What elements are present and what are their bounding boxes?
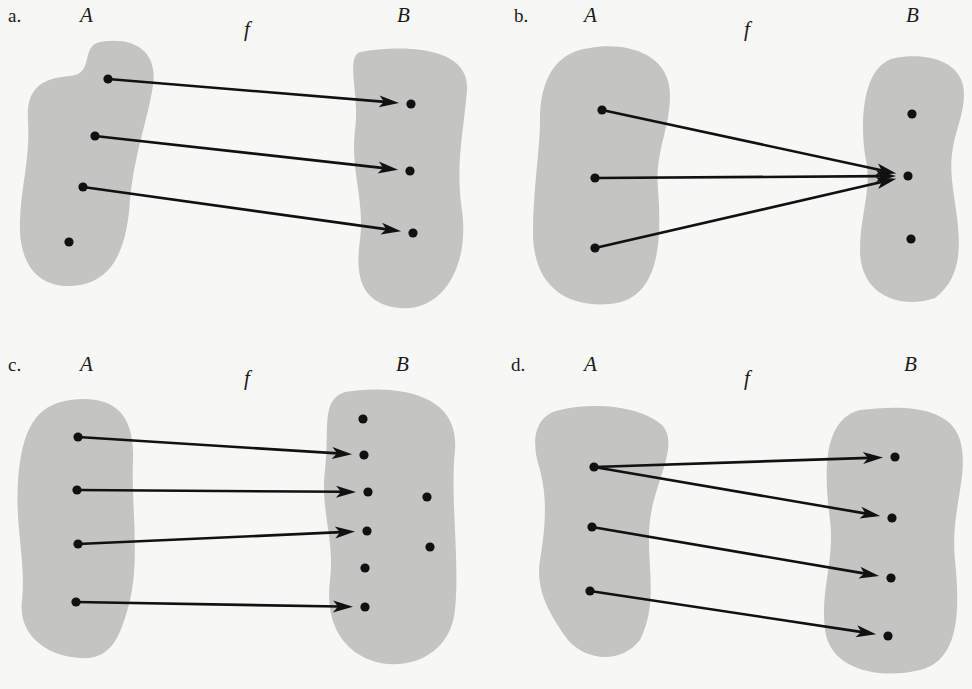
- codomain-element-dot: [907, 109, 916, 118]
- set-b-region: [353, 49, 467, 309]
- set-b-region: [860, 56, 964, 302]
- function-label: f: [744, 17, 753, 41]
- function-label: f: [744, 366, 753, 390]
- domain-set-label: A: [78, 352, 93, 376]
- panel-c: c.AfB: [8, 352, 456, 664]
- domain-element-dot: [72, 485, 81, 494]
- panels-root: a.AfBb.AfBc.AfBd.AfB: [8, 3, 964, 674]
- domain-element-dot: [78, 182, 87, 191]
- codomain-element-dot: [883, 631, 892, 640]
- domain-element-dot: [590, 173, 599, 182]
- codomain-element-dot: [358, 414, 367, 423]
- codomain-set-label: B: [396, 352, 409, 376]
- codomain-set-label: B: [906, 3, 919, 27]
- codomain-element-dot: [886, 573, 895, 582]
- panel-letter: b.: [514, 5, 528, 26]
- domain-element-dot: [587, 522, 596, 531]
- codomain-element-dot: [425, 542, 434, 551]
- panel-letter: a.: [8, 5, 21, 26]
- domain-element-dot: [64, 237, 73, 246]
- set-a-region: [20, 41, 154, 286]
- set-b-region: [324, 390, 456, 665]
- domain-element-dot: [597, 105, 606, 114]
- codomain-set-label: B: [397, 3, 410, 27]
- codomain-element-dot: [422, 492, 431, 501]
- domain-element-dot: [589, 462, 598, 471]
- codomain-element-dot: [890, 452, 899, 461]
- domain-element-dot: [585, 586, 594, 595]
- function-label: f: [244, 366, 253, 390]
- mapping-arrow: [95, 136, 398, 173]
- panel-d: d.AfB: [511, 352, 963, 674]
- domain-element-dot: [103, 74, 112, 83]
- codomain-element-dot: [360, 563, 369, 572]
- set-b-region: [824, 408, 963, 674]
- mapping-arrow: [83, 187, 401, 235]
- function-mapping-diagram: a.AfBb.AfBc.AfBd.AfB: [0, 0, 972, 689]
- codomain-element-dot: [906, 234, 915, 243]
- domain-set-label: A: [78, 3, 93, 27]
- domain-element-dot: [90, 131, 99, 140]
- set-a-region: [533, 46, 670, 304]
- codomain-element-dot: [408, 228, 417, 237]
- codomain-element-dot: [359, 450, 368, 459]
- codomain-element-dot: [360, 602, 369, 611]
- panel-b: b.AfB: [514, 3, 964, 304]
- domain-set-label: A: [582, 352, 597, 376]
- panel-letter: d.: [511, 354, 525, 375]
- panel-a: a.AfB: [8, 3, 467, 308]
- domain-element-dot: [73, 539, 82, 548]
- function-label: f: [244, 17, 253, 41]
- domain-element-dot: [73, 432, 82, 441]
- panel-letter: c.: [8, 354, 21, 375]
- domain-element-dot: [71, 597, 80, 606]
- codomain-element-dot: [362, 526, 371, 535]
- codomain-element-dot: [405, 166, 414, 175]
- codomain-element-dot: [887, 513, 896, 522]
- codomain-element-dot: [903, 171, 912, 180]
- codomain-element-dot: [406, 99, 415, 108]
- set-a-region: [535, 406, 668, 657]
- codomain-set-label: B: [904, 352, 917, 376]
- domain-set-label: A: [582, 3, 597, 27]
- codomain-element-dot: [363, 487, 372, 496]
- domain-element-dot: [590, 243, 599, 252]
